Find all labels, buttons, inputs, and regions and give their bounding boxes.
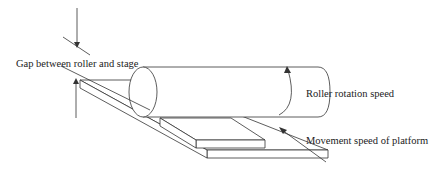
movement-label: Movement speed of platform bbox=[306, 135, 428, 146]
rotation-label: Roller rotation speed bbox=[306, 88, 395, 99]
gap-label: Gap between roller and stage bbox=[16, 58, 139, 69]
roller-stage-diagram: Gap between roller and stage Roller rota… bbox=[0, 0, 439, 196]
arrow-up-icon bbox=[73, 78, 79, 84]
roller bbox=[129, 67, 330, 117]
